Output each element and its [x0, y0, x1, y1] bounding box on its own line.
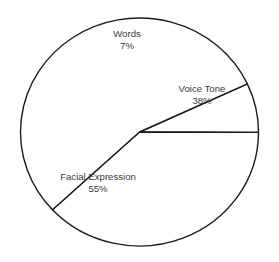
pie-slice-label-facial-expression: Facial Expression — [60, 171, 136, 182]
pie-slice-label-voice-tone: Voice Tone — [179, 83, 226, 94]
pie-chart: Words7%Voice Tone38%Facial Expression55% — [0, 0, 279, 262]
pie-slice-value-voice-tone: 38% — [192, 95, 212, 106]
pie-chart-canvas: Words7%Voice Tone38%Facial Expression55% — [0, 0, 279, 262]
pie-slices-group — [21, 18, 259, 246]
pie-slice-label-words: Words — [113, 28, 141, 39]
pie-slice-value-words: 7% — [120, 40, 134, 51]
pie-slice-value-facial-expression: 55% — [88, 183, 108, 194]
